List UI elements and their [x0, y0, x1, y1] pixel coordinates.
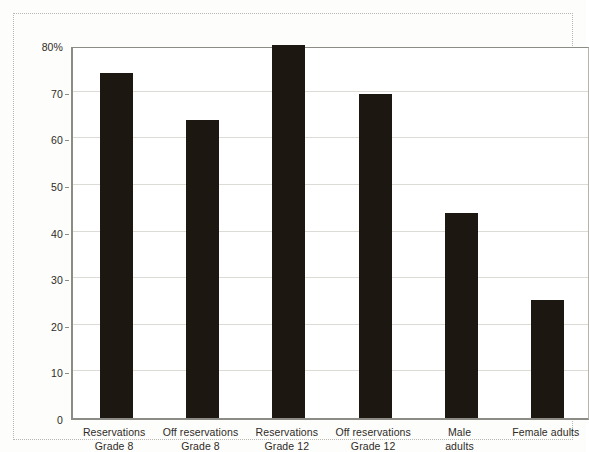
- x-tick-label-line1: Reservations: [83, 426, 145, 438]
- figure-frame: 01020304050607080% ReservationsGrade 8Of…: [13, 13, 573, 440]
- y-tick-label-30: 30: [51, 274, 63, 286]
- bar: [445, 213, 478, 418]
- y-tick-mark-60: [65, 140, 69, 141]
- x-tick-label-line2: Grade 12: [244, 440, 330, 452]
- x-tick-label: Maleadults: [416, 426, 502, 452]
- y-tick-mark-40: [65, 234, 69, 235]
- bar-series: [73, 48, 588, 418]
- y-tick-label-50: 50: [51, 181, 63, 193]
- x-tick-label-line2: Grade 12: [330, 440, 416, 452]
- x-tick-label: Female adults: [503, 426, 589, 440]
- y-tick-mark-50: [65, 187, 69, 188]
- y-tick-label-40: 40: [51, 228, 63, 240]
- x-tick-label-line1: Female adults: [512, 426, 579, 438]
- bar: [531, 300, 564, 418]
- y-tick-label-20: 20: [51, 321, 63, 333]
- bar: [272, 45, 305, 418]
- plot-area: [71, 47, 589, 420]
- y-tick-label-60: 60: [51, 134, 63, 146]
- x-tick-label: ReservationsGrade 8: [71, 426, 157, 452]
- x-tick-label: Off reservationsGrade 8: [157, 426, 243, 452]
- x-tick-label: ReservationsGrade 12: [244, 426, 330, 452]
- y-tick-mark-70: [65, 94, 69, 95]
- x-axis: ReservationsGrade 8Off reservationsGrade…: [71, 423, 589, 452]
- y-tick-label-70: 70: [51, 88, 63, 100]
- bar: [186, 120, 219, 418]
- y-tick-mark-30: [65, 280, 69, 281]
- x-tick-label-line1: Male: [448, 426, 471, 438]
- x-tick-label-line1: Off reservations: [335, 426, 411, 438]
- x-tick-label: Off reservationsGrade 12: [330, 426, 416, 452]
- y-tick-label-0: 0: [57, 414, 63, 426]
- bar: [359, 94, 392, 418]
- y-tick-label-10: 10: [51, 367, 63, 379]
- x-tick-label-line2: adults: [416, 440, 502, 452]
- y-tick-label-80: 80%: [42, 41, 63, 53]
- x-tick-label-line2: Grade 8: [157, 440, 243, 452]
- x-tick-label-line1: Reservations: [256, 426, 318, 438]
- y-axis: 01020304050607080%: [14, 47, 69, 420]
- bar: [100, 73, 133, 418]
- x-tick-label-line2: Grade 8: [71, 440, 157, 452]
- x-tick-label-line1: Off reservations: [163, 426, 239, 438]
- y-tick-mark-20: [65, 327, 69, 328]
- y-tick-mark-10: [65, 373, 69, 374]
